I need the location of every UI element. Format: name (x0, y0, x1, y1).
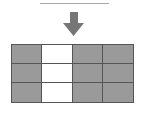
divider-line (40, 3, 109, 4)
grid-cell-r1-c2 (42, 45, 72, 64)
grid-cell-r2-c2 (42, 64, 72, 83)
shaded-grid (11, 44, 134, 103)
grid-cell-r1-c4 (103, 45, 133, 64)
grid-cell-r3-c4 (103, 83, 133, 102)
grid-cell-r2-c1 (12, 64, 42, 83)
arrow-down-icon (62, 12, 85, 37)
grid-cell-r1-c1 (12, 45, 42, 64)
grid-cell-r2-c4 (103, 64, 133, 83)
grid-cell-r3-c2 (42, 83, 72, 102)
grid-cell-r3-c1 (12, 83, 42, 102)
grid-cell-r2-c3 (73, 64, 103, 83)
grid-cell-r1-c3 (73, 45, 103, 64)
grid-cell-r3-c3 (73, 83, 103, 102)
